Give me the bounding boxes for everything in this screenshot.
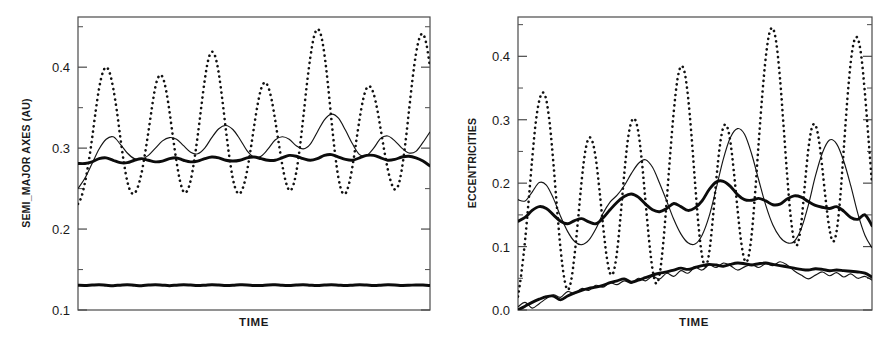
plot-semi-major-axes: SEMI_MAJOR AXES (AU) TIME 0.10.20.30.4 [0,0,444,338]
left-data-curves [78,29,430,286]
y-axis-title-left: SEMI_MAJOR AXES (AU) [20,98,32,228]
right-data-curves [518,28,872,310]
x-axis-title-left: TIME [239,316,269,328]
left-axis-elements: SEMI_MAJOR AXES (AU) TIME [20,98,269,328]
left-tick-labels: 0.10.20.30.4 [52,60,70,318]
right-axis-elements: ECCENTRICITIES TIME [466,118,709,328]
panel-semi-major-axes: SEMI_MAJOR AXES (AU) TIME 0.10.20.30.4 [0,0,444,338]
y-tick-label: 0.3 [492,113,510,128]
right-tick-labels: 0.00.10.20.30.4 [492,49,510,318]
plot-eccentricities: ECCENTRICITIES TIME 0.00.10.20.30.4 [444,0,888,338]
left-axis-frame [78,17,430,310]
figure-container: SEMI_MAJOR AXES (AU) TIME 0.10.20.30.4 E… [0,0,888,338]
y-tick-label: 0.4 [52,60,70,75]
x-axis-title-right: TIME [679,316,709,328]
series-innermost-body-flat [78,285,430,286]
y-axis-title-right: ECCENTRICITIES [466,118,478,208]
y-tick-label: 0.3 [52,141,70,156]
y-tick-label: 0.2 [492,176,510,191]
y-tick-label: 0.0 [492,303,510,318]
panel-eccentricities: ECCENTRICITIES TIME 0.00.10.20.30.4 [444,0,888,338]
series-innermost-body-thick-rising [518,263,872,310]
y-tick-label: 0.4 [492,49,510,64]
y-tick-label: 0.1 [492,240,510,255]
series-outer-body-dotted [78,29,430,204]
y-tick-label: 0.2 [52,222,70,237]
y-tick-label: 0.1 [52,303,70,318]
